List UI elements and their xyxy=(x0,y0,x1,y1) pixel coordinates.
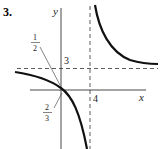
x-intercept-denominator: 3 xyxy=(45,114,49,123)
vertical-asymptote-label: 4 xyxy=(93,93,98,104)
problem-number: 3. xyxy=(3,5,12,19)
horizontal-asymptote-label: 3 xyxy=(64,55,69,66)
x-axis-label: x xyxy=(138,91,144,103)
left-branch-curve xyxy=(15,72,87,149)
rational-function-graph: 3. y x 4 3 1 2 2 3 xyxy=(0,0,163,149)
y-intercept-numerator: 1 xyxy=(33,33,37,42)
y-axis-label: y xyxy=(52,5,58,17)
right-branch-curve xyxy=(95,5,158,64)
y-intercept-denominator: 2 xyxy=(33,44,37,53)
x-intercept-numerator: 2 xyxy=(45,103,49,112)
